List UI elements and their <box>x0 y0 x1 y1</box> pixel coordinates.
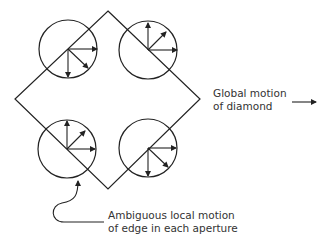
pointer-curve <box>53 181 104 222</box>
global-motion-label-line1: Global motion <box>213 87 287 100</box>
diamond-aperture-diagram <box>0 0 330 241</box>
local-motion-label-line1: Ambiguous local motion <box>108 209 235 222</box>
global-motion-label-line2: of diamond <box>213 100 272 113</box>
diamond-shape <box>15 11 200 189</box>
local-motion-label-line2: of edge in each aperture <box>108 222 238 235</box>
